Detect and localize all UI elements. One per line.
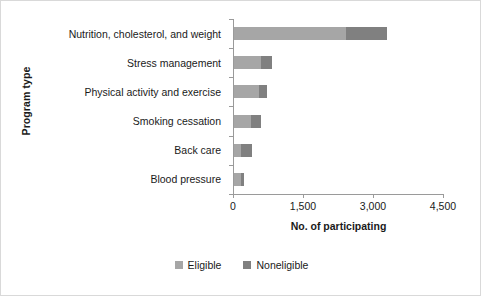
x-axis-tick-label: 3,000: [360, 200, 386, 212]
bar-stack: [234, 85, 267, 98]
y-axis-tick: [229, 19, 233, 20]
x-axis-tick-label: 0: [230, 200, 236, 212]
bar-segment-noneligible: [346, 27, 387, 40]
y-axis-tick-label: Back care: [37, 136, 227, 165]
bars-container: [234, 19, 467, 194]
legend-swatch-icon: [175, 261, 183, 269]
bar-segment-eligible: [234, 27, 346, 40]
bar-stack: [234, 173, 244, 186]
y-axis-category-labels: Nutrition, cholesterol, and weight Stres…: [37, 19, 227, 194]
x-axis-line: [233, 194, 444, 195]
chart-figure: Program type Nutrition, cholesterol, and…: [0, 0, 481, 296]
y-axis-title: Program type: [15, 1, 37, 201]
legend-item-eligible: Eligible: [175, 259, 222, 271]
bar-segment-eligible: [234, 85, 259, 98]
bar-row: [234, 48, 467, 77]
bar-stack: [234, 56, 272, 69]
legend-label: Noneligible: [256, 259, 308, 271]
x-axis-tick: [303, 194, 304, 198]
y-axis-tick-label: Stress management: [37, 48, 227, 77]
x-axis-tick: [443, 194, 444, 198]
bar-segment-eligible: [234, 173, 241, 186]
bar-segment-noneligible: [251, 115, 261, 128]
bar-stack: [234, 115, 261, 128]
plot-area: Nutrition, cholesterol, and weight Stres…: [37, 19, 467, 194]
y-axis-tick: [229, 106, 233, 107]
y-axis-tick: [229, 48, 233, 49]
bar-segment-noneligible: [241, 144, 252, 157]
x-axis-tick-label: 1,500: [290, 200, 316, 212]
legend-label: Eligible: [188, 259, 222, 271]
bar-row: [234, 165, 467, 194]
y-axis-tick: [229, 165, 233, 166]
y-axis-tick: [229, 136, 233, 137]
y-axis-tick-label: Nutrition, cholesterol, and weight: [37, 19, 227, 48]
y-axis-tick-label: Blood pressure: [37, 165, 227, 194]
bar-row: [234, 77, 467, 106]
bar-segment-noneligible: [241, 173, 244, 186]
y-axis-tick-label: Smoking cessation: [37, 107, 227, 136]
bar-segment-noneligible: [259, 85, 267, 98]
bar-stack: [234, 144, 252, 157]
bar-segment-eligible: [234, 144, 241, 157]
x-axis-tick-label: 4,500: [430, 200, 456, 212]
bar-stack: [234, 27, 387, 40]
bar-segment-eligible: [234, 56, 261, 69]
bar-segment-eligible: [234, 115, 251, 128]
x-axis-tick: [373, 194, 374, 198]
x-axis-title: No. of participating: [233, 220, 444, 232]
legend-swatch-icon: [243, 261, 251, 269]
bar-row: [234, 19, 467, 48]
y-axis-tick: [229, 77, 233, 78]
bar-row: [234, 107, 467, 136]
legend-item-noneligible: Noneligible: [243, 259, 308, 271]
bar-row: [234, 136, 467, 165]
x-axis-tick: [233, 194, 234, 198]
y-axis-tick-label: Physical activity and exercise: [37, 77, 227, 106]
chart-legend: Eligible Noneligible: [1, 259, 481, 271]
bar-segment-noneligible: [261, 56, 272, 69]
y-axis-title-text: Program type: [20, 67, 32, 136]
